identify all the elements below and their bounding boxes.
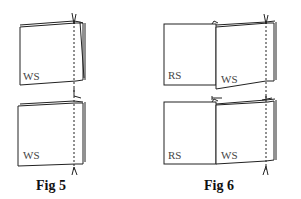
sewing-diagram: WS WS RS WS RS WS [0,0,301,199]
fig5-caption: Fig 5 [36,178,66,194]
fig6-top-ws-label: WS [221,73,238,85]
fig6-caption: Fig 6 [204,178,234,194]
fig6-top-rs-label: RS [168,69,181,81]
fig6-bottom-panel [164,96,276,175]
fig5-top-panel [20,13,85,98]
fig5-top-ws-label: WS [23,70,40,82]
fig6-top-panel [164,14,276,100]
fig6-bottom-ws-label: WS [221,149,238,161]
fig6-bottom-rs-label: RS [168,149,181,161]
fig5-bottom-ws-label: WS [23,149,40,161]
fig5-bottom-panel [18,96,85,175]
